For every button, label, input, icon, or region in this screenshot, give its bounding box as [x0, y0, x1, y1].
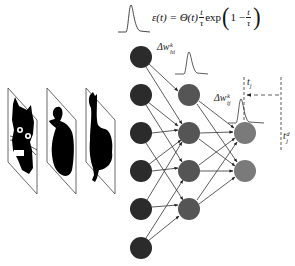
input-layer	[130, 46, 152, 259]
hidden-layer	[178, 84, 200, 220]
input-neuron	[130, 122, 152, 144]
diagram-canvas	[0, 0, 295, 266]
delta-w-ij-label: Δwkij	[214, 92, 231, 106]
desired-spike-time-label: tdj	[283, 130, 290, 144]
input-to-hidden-connections	[146, 63, 183, 241]
actual-spike-time-label: tj	[247, 76, 252, 89]
psp-kernel-pulse-icon	[118, 5, 150, 32]
hidden-neuron	[178, 84, 200, 106]
output-neuron	[234, 122, 256, 144]
output-spike-pulse-icon	[228, 99, 264, 123]
formula-paren-open: (	[222, 4, 229, 29]
hidden-neuron	[178, 198, 200, 220]
hidden-spike-pulse-icon	[175, 52, 208, 74]
hidden-neuron	[178, 160, 200, 182]
input-neuron	[130, 237, 152, 259]
formula-paren-close: )	[253, 4, 260, 29]
input-neuron	[130, 46, 152, 68]
psp-kernel-formula: ε(t) = Θ(t) t τ exp ( 1 − t τ )	[152, 2, 261, 32]
formula-fraction-1: t τ	[199, 7, 204, 28]
hidden-neuron	[178, 122, 200, 144]
output-layer	[234, 122, 256, 182]
hidden-to-output-connections	[197, 101, 237, 204]
formula-fraction-2: t τ	[246, 7, 251, 28]
input-neuron	[130, 84, 152, 106]
input-image-frame-duck	[47, 88, 76, 194]
delta-w-hi-label: Δwkhi	[157, 41, 175, 55]
formula-exp: exp	[205, 2, 221, 32]
input-neuron	[130, 198, 152, 220]
input-image-frame-rooster	[86, 88, 115, 194]
input-neuron	[130, 160, 152, 182]
snn-diagram: ε(t) = Θ(t) t τ exp ( 1 − t τ ) Δwkhi Δw…	[0, 0, 295, 266]
formula-one-minus: 1 −	[230, 2, 244, 32]
formula-lhs: ε(t) = Θ(t)	[152, 2, 198, 32]
output-neuron	[234, 160, 256, 182]
input-image-frame-cat	[8, 88, 37, 194]
